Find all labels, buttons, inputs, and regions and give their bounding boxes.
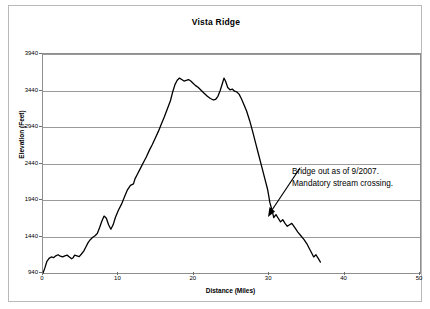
- x-tick-mark: [42, 272, 43, 275]
- y-axis-tick-marks: [9, 53, 43, 272]
- chart-title: Vista Ridge: [9, 17, 423, 27]
- x-tick-label: 20: [181, 275, 205, 281]
- x-tick-mark: [193, 272, 194, 275]
- x-tick-mark: [117, 272, 118, 275]
- plot-area: [42, 53, 421, 274]
- x-tick-mark: [268, 272, 269, 275]
- x-axis-tick-labels: 01020304050: [42, 275, 419, 287]
- annotation-text: Bridge out as of 9/2007. Mandatory strea…: [292, 166, 393, 189]
- y-axis-title: Elevation (Feet): [18, 90, 25, 180]
- x-tick-label: 40: [332, 275, 356, 281]
- elevation-profile-line: [43, 54, 420, 273]
- annotation-line-2: Mandatory stream crossing.: [292, 178, 393, 190]
- x-tick-mark: [344, 272, 345, 275]
- x-tick-label: 0: [30, 275, 54, 281]
- x-tick-label: 10: [105, 275, 129, 281]
- x-axis-title: Distance (Miles): [42, 287, 419, 294]
- x-tick-label: 30: [256, 275, 280, 281]
- x-tick-mark: [419, 272, 420, 275]
- annotation-line-1: Bridge out as of 9/2007.: [292, 166, 393, 178]
- x-tick-label: 50: [407, 275, 430, 281]
- chart-frame: Vista Ridge 940144019402440294034403940 …: [8, 5, 422, 302]
